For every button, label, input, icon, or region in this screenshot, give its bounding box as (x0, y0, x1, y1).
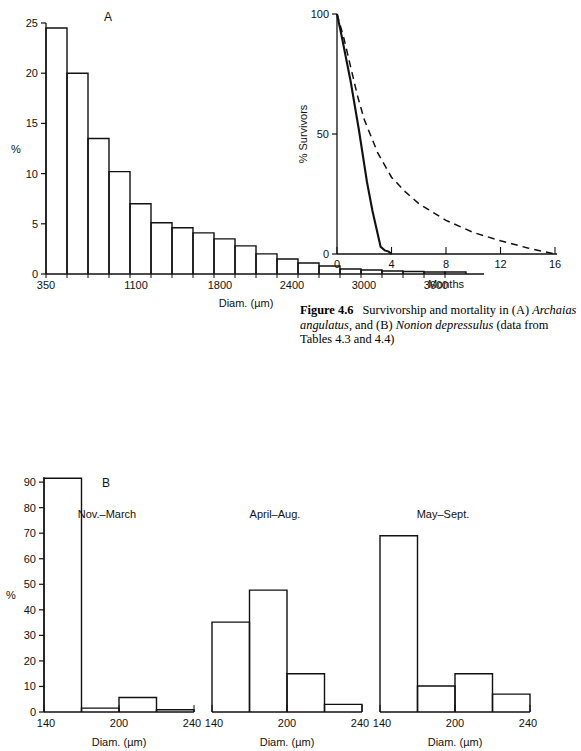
panel-b-y-tick-label: 80 (24, 502, 36, 514)
panel-a-bar (235, 246, 256, 274)
panel-a-bar (193, 233, 214, 274)
panel-a-bar (109, 172, 130, 274)
panel-b-x-tick-label: 200 (446, 717, 464, 729)
panel-b-bars (212, 590, 362, 712)
panel-a-bar (151, 223, 172, 274)
panel-b-y-tick-label: 40 (24, 604, 36, 616)
panel-b-bar (287, 674, 325, 712)
panel-a-x-tick-label: 1800 (208, 279, 232, 291)
panel-b-y-tick-label: 10 (24, 680, 36, 692)
panel-b-y-tick-label: 70 (24, 527, 36, 539)
panel-b-bar (493, 694, 531, 712)
panel-a-bar (172, 228, 193, 274)
panel-b-x-tick-label: 200 (278, 717, 296, 729)
panel-b-x-tick-label: 200 (110, 717, 128, 729)
survivorship-x-tick-label: 16 (549, 258, 561, 270)
panel-b-y-tick-label: 60 (24, 553, 36, 565)
caption-seg-2: , and (B) (349, 318, 396, 332)
panel-b-group-label: April–Aug. (250, 508, 301, 520)
caption-species-2: Nonion depressulus (396, 318, 494, 332)
panel-b-x-axis-label: Diam. (µm) (92, 736, 147, 748)
caption-seg-1: Survivorship and mortality in (A) (362, 303, 532, 317)
chart-survivorship: 050100% Survivors0481216Months (290, 0, 581, 300)
panel-b-x-tick-label: 140 (373, 717, 391, 729)
panel-b-y-tick-label: 90 (24, 476, 36, 488)
panel-b-y-tick-label: 30 (24, 629, 36, 641)
panel-b-x-tick-label: 240 (183, 717, 201, 729)
panel-b-x-tick-label: 140 (205, 717, 223, 729)
panel-a-bar (67, 73, 88, 274)
panel-b-bar (455, 674, 493, 712)
panel-b-y-tick-label: 0 (30, 706, 36, 718)
panel-a-x-tick-label: 1100 (124, 279, 148, 291)
survivorship-x-tick-label: 4 (388, 258, 394, 270)
panel-a-label: A (104, 10, 112, 24)
chart-b-svg: 0102030405060708090%B140200240Diam. (µm)… (0, 455, 581, 751)
survivorship-curve-solid (337, 14, 392, 254)
survivorship-y-tick-label: 0 (323, 248, 329, 260)
panel-a-y-axis-label: % (11, 143, 21, 155)
panel-a-y-tick-label: 15 (26, 117, 38, 129)
panel-b-bar (325, 704, 363, 712)
panel-a-bar (88, 138, 109, 274)
panel-b-label: B (102, 476, 110, 490)
survivorship-x-tick-label: 12 (494, 258, 506, 270)
panel-a-y-tick-label: 25 (26, 17, 38, 29)
panel-b-group-label: May–Sept. (417, 508, 470, 520)
panel-b-bar (418, 686, 456, 712)
panel-b-bar (44, 478, 82, 712)
panel-b-y-axis-label: % (6, 589, 16, 601)
panel-b-bar (119, 697, 157, 712)
survivorship-x-axis-label: Months (428, 278, 465, 290)
survivorship-y-tick-label: 50 (317, 128, 329, 140)
panel-a-bar (46, 28, 67, 274)
panel-b-bars (380, 536, 530, 712)
panel-a-y-tick-label: 5 (32, 218, 38, 230)
panel-b-y-tick-label: 50 (24, 578, 36, 590)
survivorship-y-axis-label: % Survivors (297, 104, 309, 163)
survivorship-svg: 050100% Survivors0481216Months (290, 0, 581, 300)
panel-a-x-tick-label: 350 (37, 279, 55, 291)
figure-caption: Figure 4.6Survivorship and mortality in … (300, 303, 578, 347)
figure-number: Figure 4.6 (300, 303, 353, 317)
panel-b-x-tick-label: 240 (351, 717, 369, 729)
panel-b-x-tick-label: 240 (519, 717, 537, 729)
panel-b-bar (212, 622, 250, 712)
panel-b-x-tick-label: 140 (37, 717, 55, 729)
panel-a-y-tick-label: 10 (26, 168, 38, 180)
panel-a-bar (130, 204, 151, 274)
panel-b-x-axis-label: Diam. (µm) (260, 736, 315, 748)
panel-b-bar (380, 536, 418, 712)
panel-b-bar (250, 590, 288, 712)
survivorship-curve-dashed (337, 14, 555, 254)
panel-a-y-tick-label: 20 (26, 67, 38, 79)
survivorship-x-tick-label: 0 (334, 258, 340, 270)
survivorship-x-tick-label: 8 (443, 258, 449, 270)
survivorship-y-tick-label: 100 (311, 8, 329, 20)
panel-a-x-axis-label: Diam. (µm) (219, 297, 274, 309)
chart-panel-b: 0102030405060708090%B140200240Diam. (µm)… (0, 455, 581, 751)
panel-a-bar (214, 239, 235, 274)
panel-b-group-label: Nov.–March (78, 508, 136, 520)
panel-b-y-tick-label: 20 (24, 655, 36, 667)
panel-b-x-axis-label: Diam. (µm) (428, 736, 483, 748)
panel-a-bar (256, 254, 277, 274)
